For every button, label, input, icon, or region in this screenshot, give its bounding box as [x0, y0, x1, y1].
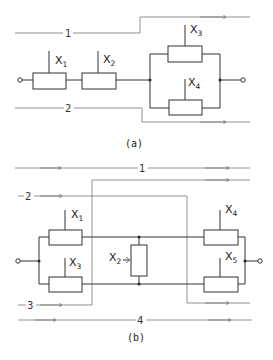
- element-x3: [49, 277, 82, 292]
- path-2-a: 2: [15, 102, 250, 122]
- path-1-b: 1: [15, 162, 250, 174]
- diagram-a: 1 X1 X2 X3 X4: [15, 17, 250, 149]
- path-4-b: 4: [18, 313, 252, 326]
- label-x3: X3: [69, 256, 82, 271]
- output-terminal: [258, 259, 262, 263]
- element-x2: [82, 73, 116, 89]
- label-x2: X2: [103, 53, 116, 68]
- path-label: 4: [137, 315, 143, 326]
- path-label: 2: [25, 191, 31, 202]
- path-label: 3: [27, 300, 33, 311]
- label-x5: X5: [225, 250, 238, 265]
- diagram-canvas: 1 X1 X2 X3 X4: [0, 0, 273, 360]
- label-x2: X2: [109, 251, 122, 266]
- circuit-a: X1 X2 X3 X4: [18, 23, 245, 115]
- element-x4: [204, 230, 238, 245]
- path-label: 2: [65, 103, 71, 114]
- path-label: 1: [65, 28, 71, 39]
- label-x1: X1: [71, 208, 84, 223]
- input-terminal: [16, 259, 20, 263]
- path-1-a: 1: [15, 17, 250, 39]
- output-terminal: [241, 78, 245, 82]
- label-x1: X1: [55, 54, 68, 69]
- label-x4: X4: [225, 203, 238, 218]
- label-x3: X3: [190, 23, 203, 38]
- element-x3: [168, 46, 202, 62]
- element-x5: [204, 277, 238, 292]
- element-x4: [169, 100, 202, 115]
- path-label: 1: [139, 163, 145, 174]
- caption-a: (a): [125, 138, 143, 149]
- element-x1: [49, 230, 82, 245]
- label-x4: X4: [188, 76, 201, 91]
- diagram-b: 1 3 2 4: [15, 162, 262, 343]
- element-x2: [131, 245, 147, 276]
- circuit-b: X1 X3 X2 X4 X5: [16, 203, 262, 292]
- input-terminal: [18, 78, 22, 82]
- element-x1: [33, 73, 66, 89]
- caption-b: (b): [127, 332, 145, 343]
